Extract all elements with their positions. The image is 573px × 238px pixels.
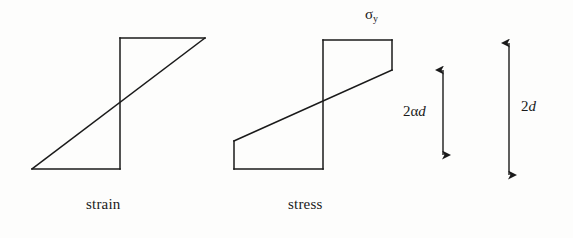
stress-strain-distribution-figure: σy 2αd 2d strain stress	[0, 0, 573, 238]
sigma-symbol: σ	[365, 6, 373, 22]
stress-elastic-core-line	[234, 70, 392, 141]
sigma-subscript: y	[373, 13, 378, 24]
strain-caption: strain	[86, 196, 121, 213]
elastic-core-dimension-variable: d	[418, 103, 426, 119]
yield-stress-label: σy	[365, 6, 378, 24]
elastic-core-dimension-label: 2αd	[403, 103, 426, 120]
section-depth-dimension-prefix: 2	[521, 98, 529, 114]
section-depth-dimension-label: 2d	[521, 98, 536, 115]
strain-profile-graphic	[32, 38, 205, 169]
stress-caption: stress	[288, 196, 323, 213]
section-depth-dimension-variable: d	[529, 98, 537, 114]
stress-profile-graphic	[234, 40, 392, 169]
strain-diagonal-line	[32, 38, 205, 169]
elastic-core-dimension-prefix: 2α	[403, 103, 418, 119]
